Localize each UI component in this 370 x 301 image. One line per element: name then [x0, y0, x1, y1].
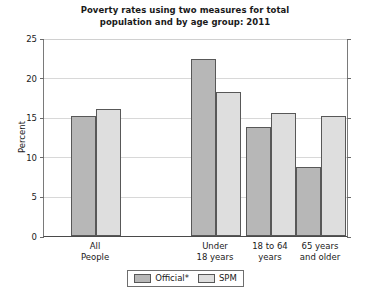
bar-official-0 — [71, 116, 96, 236]
tick-15 — [40, 118, 44, 119]
legend-label: Official* — [155, 274, 189, 283]
y-tick-label-10: 10 — [13, 154, 37, 163]
x-label-line: People — [55, 252, 135, 263]
page-title: Poverty rates using two measures for tot… — [0, 5, 370, 28]
y-tick-label-0: 0 — [13, 233, 37, 242]
x-label-line: 65 years — [280, 241, 360, 252]
bar-official-1 — [191, 59, 216, 236]
chart-legend: Official*SPM — [127, 270, 244, 287]
legend-label: SPM — [219, 274, 237, 283]
legend-swatch-icon — [134, 274, 151, 283]
tick-20 — [347, 78, 351, 79]
tick-25 — [40, 39, 44, 40]
bar-spm-1 — [216, 92, 241, 236]
tick-15 — [347, 118, 351, 119]
y-tick-label-25: 25 — [13, 35, 37, 44]
bar-official-3 — [296, 167, 321, 236]
x-axis-label-0: AllPeople — [55, 241, 135, 263]
bar-spm-0 — [96, 109, 121, 237]
chart-title-line-2: population and by age group: 2011 — [0, 17, 370, 29]
gridline-25 — [44, 39, 347, 40]
chart-title-line-1: Poverty rates using two measures for tot… — [0, 5, 370, 17]
x-label-line: and older — [280, 252, 360, 263]
bar-official-2 — [246, 127, 271, 236]
x-label-line: All — [55, 241, 135, 252]
bar-spm-2 — [271, 113, 296, 236]
y-tick-label-5: 5 — [13, 193, 37, 202]
tick-10 — [40, 157, 44, 158]
tick-5 — [40, 197, 44, 198]
x-axis-label-3: 65 yearsand older — [280, 241, 360, 263]
legend-item-spm[interactable]: SPM — [198, 274, 237, 283]
legend-item-official[interactable]: Official* — [134, 274, 189, 283]
tick-10 — [347, 157, 351, 158]
legend-swatch-icon — [198, 274, 215, 283]
tick-20 — [40, 78, 44, 79]
tick-25 — [347, 39, 351, 40]
y-tick-label-15: 15 — [13, 114, 37, 123]
tick-0 — [347, 237, 351, 238]
bar-spm-3 — [321, 116, 346, 236]
y-axis-title: Percent — [17, 121, 27, 153]
plot-area: Percent — [43, 39, 348, 237]
y-tick-label-20: 20 — [13, 75, 37, 84]
tick-0 — [40, 237, 44, 238]
tick-5 — [347, 197, 351, 198]
